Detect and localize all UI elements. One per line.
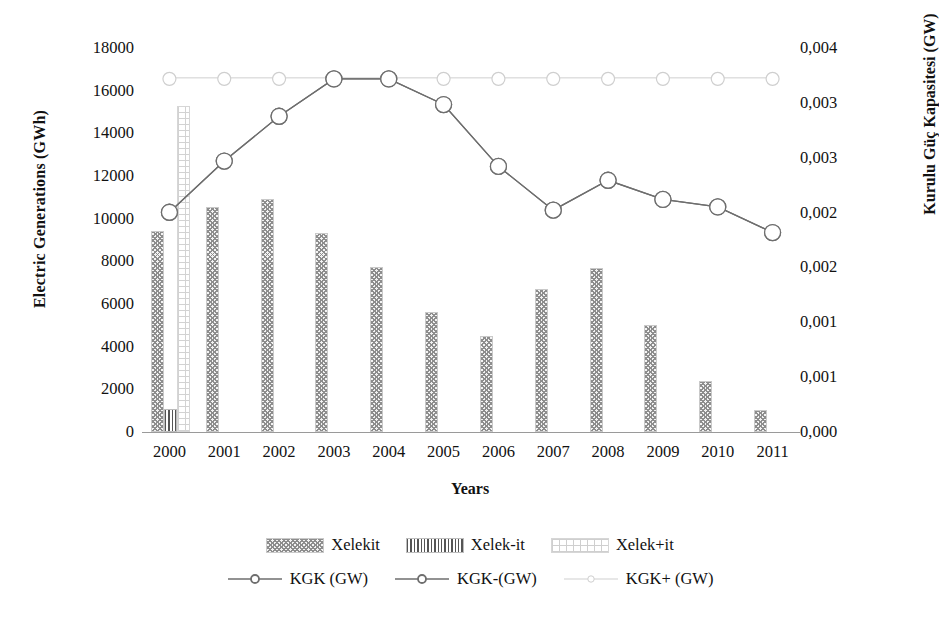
- y-axis-left-tick: 8000: [62, 251, 134, 271]
- bar-xelekit: [644, 325, 657, 432]
- y-axis-left-tick: 18000: [62, 38, 134, 58]
- bar-xelekit: [535, 289, 548, 432]
- bar-xelekit: [754, 410, 767, 432]
- legend-label: KGK (GW): [290, 569, 368, 589]
- bar-xelekit: [315, 233, 328, 432]
- x-axis-title: Years: [300, 480, 640, 498]
- legend-label: Xelek+it: [616, 535, 674, 555]
- legend-item[interactable]: Xelekit: [266, 535, 380, 555]
- y-axis-left-tick: 10000: [62, 209, 134, 229]
- bar-xelekit: [261, 199, 274, 432]
- x-axis-tick: 2011: [738, 442, 808, 462]
- y-axis-left-tick: 0: [62, 422, 134, 442]
- y-axis-right-title: Kurulu Güç Kapasitesi (GW): [921, 0, 939, 264]
- legend-item[interactable]: Xelek-it: [406, 535, 525, 555]
- chart-legend: XelekitXelek-itXelek+it KGK (GW)KGK-(GW)…: [140, 528, 800, 596]
- plot-area: [142, 48, 800, 432]
- bar-xelekit: [590, 268, 603, 432]
- line-circle-marker-icon: [394, 572, 450, 586]
- y-axis-right-tick: 0,002: [800, 257, 880, 277]
- legend-item[interactable]: KGK-(GW): [394, 569, 537, 589]
- bar-xelekit: [370, 267, 383, 432]
- y-axis-left-tick: 16000: [62, 81, 134, 101]
- bar-xelekit: [206, 207, 219, 432]
- legend-item[interactable]: KGK+ (GW): [563, 569, 714, 589]
- x-axis-line: [142, 432, 800, 433]
- light-line-marker-icon: [563, 572, 619, 586]
- legend-row-lines: KGK (GW)KGK-(GW)KGK+ (GW): [140, 562, 800, 596]
- y-axis-right-tick: 0,004: [800, 38, 880, 58]
- striped-swatch-icon: [406, 538, 464, 553]
- y-axis-left-tick: 2000: [62, 379, 134, 399]
- y-axis-left-tick: 14000: [62, 123, 134, 143]
- legend-item[interactable]: Xelek+it: [551, 535, 674, 555]
- y-axis-right-tick: 0,002: [800, 203, 880, 223]
- y-axis-left-title: Electric Generations (GWh): [31, 79, 49, 339]
- y-axis-right-tick: 0,001: [800, 312, 880, 332]
- y-axis-right-tick: 0,003: [800, 148, 880, 168]
- y-axis-left-tick: 12000: [62, 166, 134, 186]
- y-axis-left-tick: 6000: [62, 294, 134, 314]
- y-axis-right-tick: 0,001: [800, 367, 880, 387]
- dotted-swatch-icon: [551, 538, 609, 553]
- legend-label: Xelek-it: [471, 535, 525, 555]
- checkered-swatch-icon: [266, 538, 324, 553]
- legend-label: Xelekit: [331, 535, 380, 555]
- bar-xelekplus: [177, 106, 190, 432]
- bar-xelekminus: [164, 409, 177, 432]
- y-axis-right-tick: 0,000: [800, 422, 880, 442]
- bar-xelekit: [699, 381, 712, 432]
- legend-row-bars: XelekitXelek-itXelek+it: [140, 528, 800, 562]
- bar-xelekit: [425, 312, 438, 432]
- bar-xelekit: [151, 231, 164, 432]
- y-axis-left-tick: 4000: [62, 337, 134, 357]
- line-circle-marker-icon: [227, 572, 283, 586]
- legend-label: KGK+ (GW): [626, 569, 714, 589]
- y-axis-right-tick: 0,003: [800, 93, 880, 113]
- legend-item[interactable]: KGK (GW): [227, 569, 368, 589]
- bar-xelekit: [480, 336, 493, 432]
- legend-label: KGK-(GW): [457, 569, 537, 589]
